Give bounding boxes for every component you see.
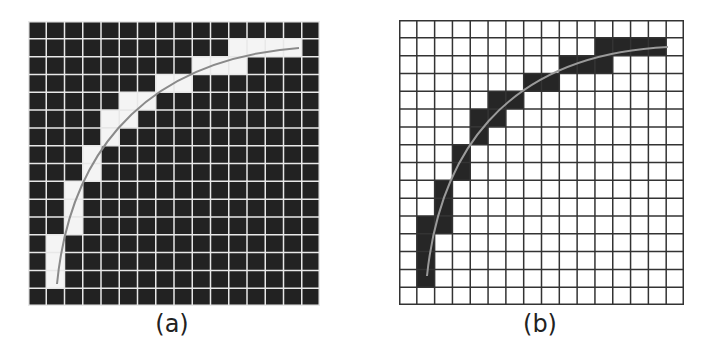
- highlighted-cell: [542, 73, 560, 91]
- panel-b-grid: [399, 20, 684, 305]
- panel-a-grid: [28, 21, 320, 306]
- grid-b-svg: [399, 20, 684, 305]
- highlighted-cell: [417, 252, 435, 270]
- highlighted-cell: [101, 110, 119, 128]
- highlighted-cell: [417, 269, 435, 287]
- highlighted-cell: [417, 216, 435, 234]
- grid-a-svg: [28, 21, 320, 306]
- highlighted-cell: [631, 38, 649, 56]
- highlighted-cell: [265, 39, 283, 57]
- highlighted-cell: [595, 38, 613, 56]
- highlighted-cell: [595, 56, 613, 74]
- caption-b: (b): [500, 310, 580, 338]
- highlighted-cell: [119, 92, 137, 110]
- highlighted-cell: [506, 91, 524, 109]
- highlighted-cell: [46, 270, 64, 288]
- highlighted-cell: [229, 39, 247, 57]
- caption-a: (a): [132, 310, 212, 338]
